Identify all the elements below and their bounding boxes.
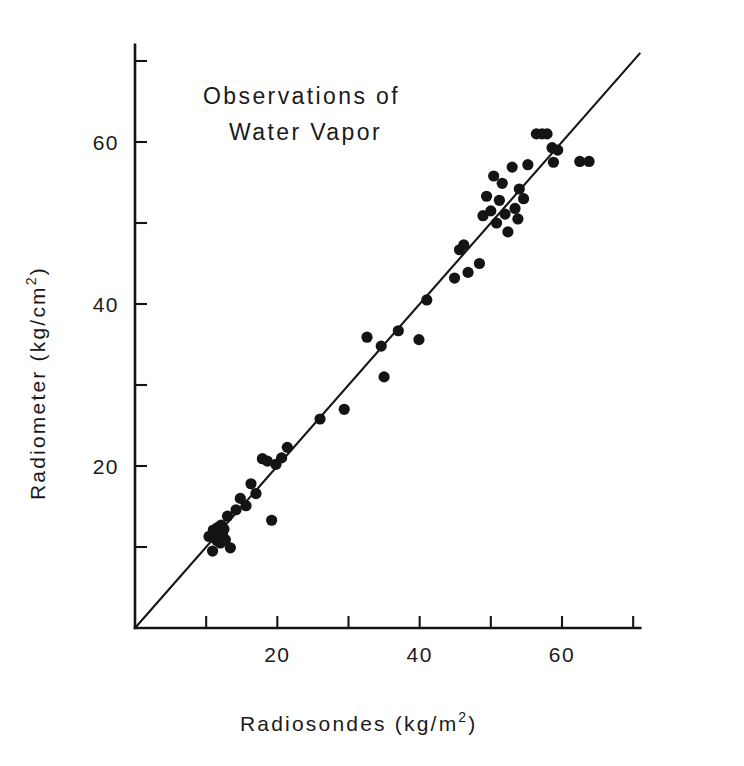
chart-title-line2: Water Vapor	[229, 119, 382, 145]
y-axis-title-tail: )	[26, 266, 49, 275]
svg-text:Radiosondes (kg/m2): Radiosondes (kg/m2)	[240, 709, 478, 735]
x-axis-title-superscript: 2	[458, 709, 468, 725]
y-axis-title-superscript: 2	[23, 275, 39, 285]
y-axis-title: Radiometer (kg/cm2)	[23, 266, 49, 500]
x-axis-title-text: Radiosondes (kg/m	[240, 712, 458, 735]
chart-page: 204060204060 Observations of Water Vapor…	[0, 0, 744, 766]
svg-text:Radiometer (kg/cm2): Radiometer (kg/cm2)	[23, 266, 49, 500]
chart-title-line1: Observations of	[203, 83, 400, 109]
x-axis-title: Radiosondes (kg/m2)	[240, 709, 478, 735]
chart-text-layer: Observations of Water Vapor Radiosondes …	[0, 0, 744, 766]
x-axis-title-tail: )	[468, 712, 477, 735]
y-axis-title-text: Radiometer (kg/cm	[26, 285, 49, 500]
